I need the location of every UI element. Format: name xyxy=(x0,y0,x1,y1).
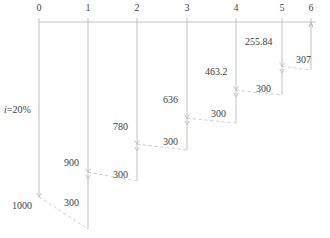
balance-label-p3: 636 xyxy=(163,94,178,105)
node-arrowheads xyxy=(37,23,314,197)
payment-label-p6: 307 xyxy=(296,54,311,65)
axis-horizontal-line xyxy=(39,22,316,26)
connector-2-3 xyxy=(137,144,187,150)
balance-label-p2: 780 xyxy=(113,121,128,132)
payment-label-p3: 300 xyxy=(163,136,178,147)
axis-tick-label-6: 6 xyxy=(302,3,320,13)
payment-label-p1: 300 xyxy=(64,197,79,208)
interest-rate-value: =20% xyxy=(7,104,31,115)
balance-label-p0: 1000 xyxy=(12,200,32,211)
cash-flow-diagram: 0 1 2 3 4 5 6 i=20% 1000 900 780 636 463… xyxy=(0,0,330,238)
interest-rate-label: i=20% xyxy=(4,104,31,115)
axis-tick-label-4: 4 xyxy=(227,3,245,13)
axis-tick-label-2: 2 xyxy=(128,3,146,13)
axis-tick-label-3: 3 xyxy=(178,3,196,13)
payment-label-p5: 300 xyxy=(256,83,271,94)
diagram-canvas xyxy=(0,0,330,238)
payment-label-p2: 300 xyxy=(113,169,128,180)
balance-label-p1: 900 xyxy=(64,157,79,168)
axis-ticks xyxy=(39,18,311,22)
connector-5-6 xyxy=(282,66,311,70)
axis-tick-label-1: 1 xyxy=(79,3,97,13)
period-vertical-lines xyxy=(39,22,311,229)
axis-tick-label-0: 0 xyxy=(30,3,48,13)
balance-label-p5: 255.84 xyxy=(245,36,273,47)
axis-tick-label-5: 5 xyxy=(273,3,291,13)
balance-label-p4: 463.2 xyxy=(205,66,228,77)
payment-label-p4: 300 xyxy=(211,108,226,119)
